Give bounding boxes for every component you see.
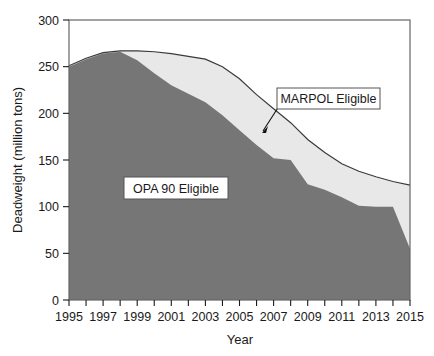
x-tick-label-2003: 2003 — [191, 310, 219, 324]
x-tick-label-2001: 2001 — [157, 310, 185, 324]
y-tick-label-300: 300 — [38, 14, 59, 28]
x-tick-label-2005: 2005 — [226, 310, 254, 324]
x-tick-label-2015: 2015 — [396, 310, 424, 324]
marpol-callout-label: MARPOL Eligible — [280, 92, 376, 106]
x-tick-label-2007: 2007 — [260, 310, 288, 324]
y-tick-label-100: 100 — [38, 200, 59, 214]
y-axis-title: Deadweight (million tons) — [10, 87, 25, 233]
x-axis-title: Year — [227, 332, 254, 347]
x-axis-ticks: 1995199719992001200320052007200920112013… — [55, 300, 424, 324]
x-tick-label-1999: 1999 — [123, 310, 151, 324]
y-tick-label-150: 150 — [38, 154, 59, 168]
y-tick-label-0: 0 — [52, 294, 59, 308]
x-tick-label-2009: 2009 — [294, 310, 322, 324]
x-tick-label-1997: 1997 — [89, 310, 117, 324]
area-chart: 050100150200250300 199519971999200120032… — [0, 0, 434, 356]
y-tick-label-250: 250 — [38, 60, 59, 74]
x-tick-label-2011: 2011 — [328, 310, 355, 324]
y-tick-label-50: 50 — [45, 247, 59, 261]
x-tick-label-2013: 2013 — [362, 310, 390, 324]
y-axis-ticks: 050100150200250300 — [38, 14, 69, 308]
x-tick-label-1995: 1995 — [55, 310, 83, 324]
figure-container: 050100150200250300 199519971999200120032… — [0, 0, 434, 356]
y-tick-label-200: 200 — [38, 107, 59, 121]
opa90-callout-label: OPA 90 Eligible — [133, 182, 219, 196]
